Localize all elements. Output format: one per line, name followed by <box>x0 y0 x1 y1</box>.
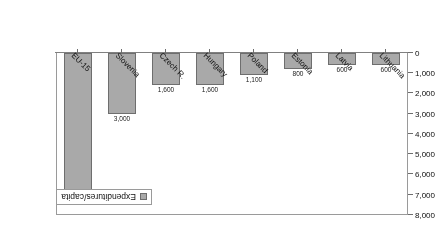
value-tick <box>408 194 413 195</box>
category-tick <box>341 49 342 53</box>
value-tick <box>408 133 413 134</box>
value-tick <box>408 174 413 175</box>
value-tick <box>408 113 413 114</box>
value-tick-label: 7,000 <box>415 191 439 200</box>
value-tick-label: 1,000 <box>415 69 439 78</box>
value-tick-label: 6,000 <box>415 171 439 180</box>
value-tick <box>408 52 413 53</box>
value-tick-label: 0 <box>415 49 439 58</box>
chart-legend: Expenditures/capita <box>56 189 152 205</box>
category-tick <box>121 49 122 53</box>
bar-value-label: 3,000 <box>99 115 145 122</box>
value-tick-label: 8,000 <box>415 211 439 220</box>
value-tick-label: 4,000 <box>415 130 439 139</box>
value-tick <box>408 214 413 215</box>
category-tick <box>165 49 166 53</box>
category-tick <box>385 49 386 53</box>
legend-label: Expenditures/capita <box>61 192 136 202</box>
value-tick-label: 3,000 <box>415 110 439 119</box>
category-tick <box>77 49 78 53</box>
value-axis: 01,0002,0003,0004,0005,0006,0007,0008,00… <box>408 52 430 215</box>
category-tick <box>209 49 210 53</box>
category-axis-labels: LithuaniaLatviaEstoniaPolandHungaryCzech… <box>56 1 408 51</box>
value-tick <box>408 153 413 154</box>
value-tick-label: 5,000 <box>415 150 439 159</box>
category-tick <box>253 49 254 53</box>
legend-swatch-icon <box>140 194 147 201</box>
category-tick <box>297 49 298 53</box>
